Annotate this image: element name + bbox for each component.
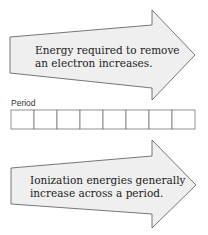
- arrow-text-line-2: increase across a period.: [30, 187, 163, 199]
- arrow-text-line-1: Ionization energies generally: [30, 174, 186, 186]
- period-cell: [172, 110, 195, 129]
- arrow-text-line-1: Energy required to remove: [35, 44, 180, 56]
- arrow-text-line-2: an electron increases.: [35, 57, 153, 69]
- period-cell: [11, 110, 34, 129]
- arrow-energy-required: Energy required to remove an electron in…: [10, 10, 195, 100]
- period-cell: [80, 110, 103, 129]
- period-cell: [149, 110, 172, 129]
- diagram: Energy required to remove an electron in…: [0, 0, 208, 235]
- period-cell: [34, 110, 57, 129]
- period-label: Period: [11, 98, 36, 108]
- period-table: Period: [11, 98, 195, 129]
- period-cell: [103, 110, 126, 129]
- arrow-ionization-energies: Ionization energies generally increase a…: [11, 140, 196, 228]
- period-cell: [57, 110, 80, 129]
- period-cell: [126, 110, 149, 129]
